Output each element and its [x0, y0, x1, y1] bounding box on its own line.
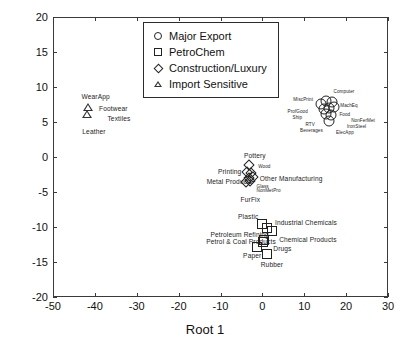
- diamond-marker-icon: [151, 65, 165, 72]
- x-tick: [95, 17, 96, 21]
- point-label: WearApp: [81, 93, 109, 100]
- x-tick: [179, 293, 180, 297]
- point-label: FurFix: [241, 196, 260, 203]
- x-tick: [95, 293, 96, 297]
- y-tick: [53, 297, 57, 298]
- y-tick: [53, 157, 57, 158]
- point-label: ElecApp: [336, 130, 354, 135]
- x-tick: [137, 17, 138, 21]
- x-tick-label: -10: [213, 300, 229, 312]
- y-tick: [53, 192, 57, 193]
- y-tick-label: -20: [20, 291, 48, 303]
- y-tick: [384, 87, 388, 88]
- point-label: RTV: [306, 122, 315, 127]
- y-tick-label: -15: [20, 256, 48, 268]
- x-tick: [388, 293, 389, 297]
- legend-item-label: PetroChem: [165, 46, 225, 58]
- point-label: Wood: [258, 164, 270, 169]
- x-tick-label: -20: [171, 300, 187, 312]
- data-point-circle: [324, 115, 335, 126]
- y-tick: [53, 17, 57, 18]
- x-tick-label: 30: [382, 300, 394, 312]
- point-label: Metal Products: [207, 178, 253, 185]
- point-label: IronSteel: [347, 124, 366, 129]
- point-label: Leather: [82, 128, 105, 135]
- legend-item-triangle: Import Sensitive: [151, 76, 271, 92]
- y-tick-label: -5: [20, 186, 48, 198]
- square-marker-icon: [151, 48, 165, 56]
- point-label: Pottery: [244, 152, 266, 159]
- legend-item-label: Major Export: [165, 30, 231, 42]
- circle-marker-icon: [151, 32, 165, 40]
- x-tick-label: 0: [259, 300, 265, 312]
- y-tick: [384, 17, 388, 18]
- y-tick: [384, 262, 388, 263]
- legend-item-circle: Major Export: [151, 28, 271, 44]
- y-tick-label: 5: [20, 116, 48, 128]
- x-tick: [221, 17, 222, 21]
- y-tick-label: 15: [20, 46, 48, 58]
- point-label: Other Manufacturing: [260, 175, 323, 182]
- y-tick-label: -10: [20, 221, 48, 233]
- x-tick-label: -40: [87, 300, 103, 312]
- point-label: Petrol & Coal Products: [206, 238, 276, 245]
- y-tick: [384, 192, 388, 193]
- triangle-marker-icon: [151, 81, 165, 87]
- x-tick: [304, 17, 305, 21]
- y-tick: [384, 122, 388, 123]
- y-tick: [53, 87, 57, 88]
- point-label: Petroleum Refining: [210, 231, 268, 238]
- point-label: Drugs: [273, 245, 291, 252]
- y-tick: [53, 262, 57, 263]
- point-label: MiscPrint: [293, 97, 313, 102]
- legend-item-square: PetroChem: [151, 44, 271, 60]
- scatter-plot-figure: -50-40-30-20-100102030-20-15-10-50510152…: [0, 0, 410, 349]
- x-tick: [179, 17, 180, 21]
- legend-item-diamond: Construction/Luxury: [151, 60, 271, 76]
- y-tick: [384, 52, 388, 53]
- x-tick: [346, 17, 347, 21]
- point-label: Plastic: [238, 213, 258, 220]
- x-tick: [262, 293, 263, 297]
- point-label: NonMetPro: [257, 188, 281, 193]
- point-label: Footwear: [99, 105, 128, 112]
- x-tick: [221, 293, 222, 297]
- y-axis-title: Root 2: [0, 125, 2, 163]
- y-tick: [384, 227, 388, 228]
- point-label: Computer: [334, 89, 355, 94]
- data-point-square: [262, 249, 272, 259]
- point-label: Textiles: [107, 115, 130, 122]
- x-tick: [137, 293, 138, 297]
- point-label: Ship: [293, 115, 303, 120]
- point-label: NonFerMet: [351, 118, 375, 123]
- x-tick-label: 20: [340, 300, 352, 312]
- x-tick-label: 10: [298, 300, 310, 312]
- point-label: Industrial Chemicals: [275, 219, 337, 226]
- point-label: ProfGood: [288, 109, 308, 114]
- point-label: MachEq: [340, 103, 357, 108]
- y-tick: [384, 297, 388, 298]
- legend-item-label: Import Sensitive: [165, 78, 248, 90]
- y-tick: [53, 227, 57, 228]
- x-axis-title: Root 1: [0, 322, 410, 337]
- y-tick: [53, 122, 57, 123]
- point-label: Beverages: [300, 128, 323, 133]
- point-label: Chemical Products: [279, 236, 337, 243]
- y-tick-label: 0: [20, 151, 48, 163]
- legend-item-label: Construction/Luxury: [165, 62, 267, 74]
- x-tick: [304, 293, 305, 297]
- legend: Major ExportPetroChemConstruction/Luxury…: [143, 22, 279, 98]
- point-label: Printing: [218, 168, 241, 175]
- y-tick: [384, 157, 388, 158]
- y-tick-label: 10: [20, 81, 48, 93]
- x-tick: [388, 17, 389, 21]
- point-label: Paper: [243, 252, 261, 259]
- x-tick: [262, 17, 263, 21]
- x-tick-label: -30: [129, 300, 145, 312]
- point-label: Rubber: [261, 261, 283, 268]
- x-tick: [346, 293, 347, 297]
- data-point-triangle: [82, 110, 92, 118]
- y-tick: [53, 52, 57, 53]
- y-tick-label: 20: [20, 11, 48, 23]
- point-label: Food: [339, 112, 350, 117]
